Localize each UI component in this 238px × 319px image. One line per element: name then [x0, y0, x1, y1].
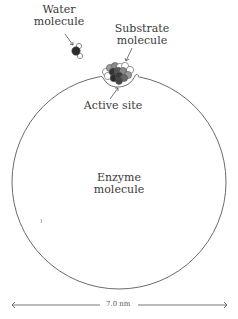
water-label-line2: molecule	[32, 16, 86, 28]
enzyme-diagram	[0, 0, 238, 319]
active-site-label: Active site	[78, 100, 148, 112]
scale-bar-label: 7.0 nm	[103, 300, 134, 308]
active-site-text: Active site	[78, 100, 148, 112]
enzyme-molecule-label: Enzyme molecule	[84, 172, 154, 196]
active-site-arrow	[110, 88, 118, 99]
water-molecule	[72, 43, 83, 58]
water-molecule-label: Water molecule	[32, 4, 86, 28]
water-arrow	[65, 34, 73, 45]
substrate-label-line2: molecule	[107, 35, 177, 47]
substrate-molecule-label: Substrate molecule	[107, 23, 177, 47]
enzyme-label-line2: molecule	[84, 184, 154, 196]
